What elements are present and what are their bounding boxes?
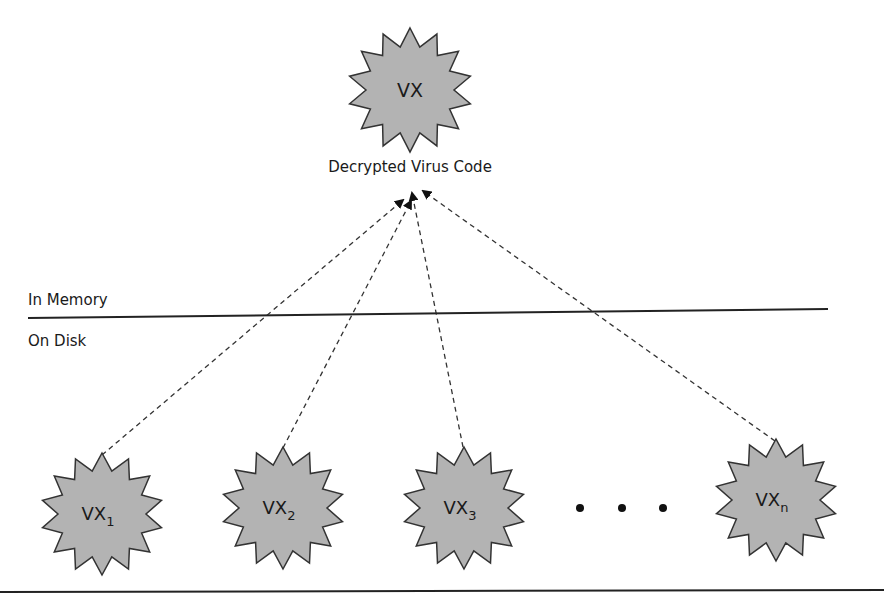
ellipsis-dot [618, 504, 626, 512]
ellipsis-dot [576, 504, 584, 512]
ellipsis-dots [576, 504, 667, 512]
decrypted-virus-node: VX [350, 28, 471, 152]
encrypted-variants: VX1VX2VX3VXn [43, 439, 836, 575]
decrypt-arrow [412, 193, 463, 447]
decrypt-arrow [423, 191, 775, 441]
diagram-canvas: In Memory On Disk VX Decrypted Virus Cod… [0, 0, 884, 599]
encrypted-variant-node: VX2 [224, 447, 343, 569]
polymorphic-virus-diagram: In Memory On Disk VX Decrypted Virus Cod… [0, 0, 884, 599]
decrypted-virus-caption: Decrypted Virus Code [328, 158, 492, 176]
in-memory-label: In Memory [28, 291, 108, 309]
encrypted-variant-node: VX1 [43, 453, 162, 575]
decryption-arrows [102, 191, 775, 455]
decrypt-arrow [283, 201, 411, 448]
memory-disk-divider [28, 309, 828, 318]
encrypted-variant-node: VXn [717, 439, 836, 561]
decrypt-arrow [102, 200, 403, 455]
on-disk-label: On Disk [28, 332, 87, 350]
encrypted-variant-node: VX3 [405, 447, 524, 569]
bottom-rule [0, 590, 884, 592]
ellipsis-dot [659, 504, 667, 512]
node-label: VX [397, 79, 423, 101]
